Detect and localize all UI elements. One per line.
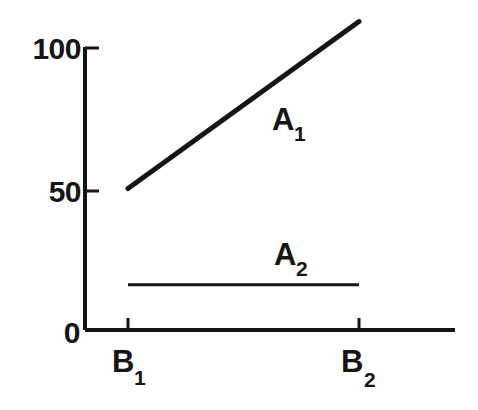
series-a2-label-subscript: 2 (296, 257, 308, 280)
y-tick-label-0: 0 (64, 316, 80, 349)
x-axis-tick-labels: B 1 B 2 (112, 344, 376, 391)
x-tick-label-b1-subscript: 1 (134, 366, 146, 389)
series-a2-group: A 2 (128, 237, 359, 285)
chart-canvas: 100 50 0 B 1 B 2 A 1 A 2 (0, 0, 478, 410)
y-axis-tick-labels: 100 50 0 (32, 32, 81, 349)
series-a1-label-subscript: 1 (294, 122, 306, 145)
series-a1-line (128, 22, 359, 189)
series-a2-label-main: A (274, 237, 296, 272)
series-a1-label-main: A (272, 102, 294, 137)
y-axis-ticks (85, 48, 99, 191)
x-tick-label-b2-subscript: 2 (364, 368, 376, 391)
y-tick-label-100: 100 (32, 32, 81, 65)
axes-group (85, 47, 455, 330)
x-tick-label-b2-main: B (341, 344, 363, 379)
x-tick-label-b1-main: B (112, 344, 134, 379)
interaction-plot-figure: 100 50 0 B 1 B 2 A 1 A 2 (0, 0, 478, 410)
series-a1-group: A 1 (128, 22, 359, 189)
y-tick-label-50: 50 (49, 175, 81, 208)
